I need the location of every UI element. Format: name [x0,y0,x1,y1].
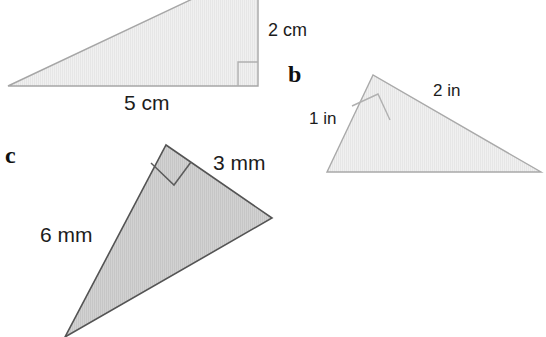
triangle-a-height-label: 2 cm [268,21,307,39]
triangle-b-leg-label: 1 in [309,110,336,127]
triangle-b-hypotenuse-label: 2 in [433,82,460,99]
triangle-c-short-leg-label: 3 mm [213,152,266,173]
triangle-b-part-label: b [288,62,301,86]
triangle-c-part-label: c [5,143,16,167]
figure-canvas: 5 cm 2 cm b 1 in 2 in c 3 mm 6 mm [0,0,546,337]
triangle-c-long-leg-label: 6 mm [40,224,93,245]
triangle-a-base-label: 5 cm [124,92,170,113]
triangles-svg [0,0,546,337]
triangle-a [8,0,258,86]
triangle-a-shape [8,0,258,86]
